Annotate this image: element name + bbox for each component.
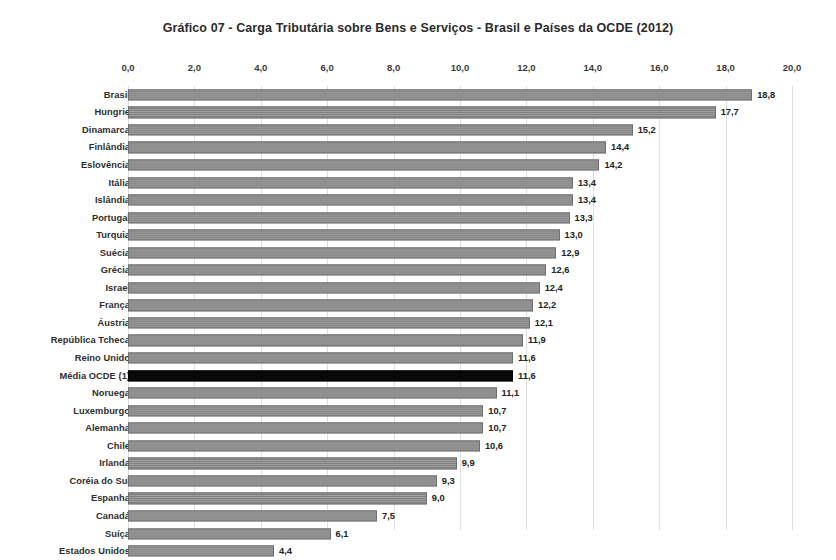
category-label: Canadá [96, 511, 130, 521]
bar [128, 265, 546, 276]
x-tick-label: 0,0 [121, 62, 134, 73]
bar-row: França12,2 [0, 297, 836, 315]
bar-row: Suécia12,9 [0, 244, 836, 262]
bar-value-label: 14,4 [611, 142, 629, 152]
bar [128, 317, 530, 328]
x-tick-label: 2,0 [188, 62, 201, 73]
bar-row: Dinamarca15,2 [0, 121, 836, 139]
bar-value-label: 10,6 [485, 441, 503, 451]
bar-row: Itália13,4 [0, 174, 836, 192]
x-tick-label: 14,0 [584, 62, 603, 73]
bar [128, 352, 513, 363]
bar-row: República Tcheca11,9 [0, 332, 836, 350]
bar-row: Israel12,4 [0, 279, 836, 297]
x-axis-tick-labels: 0,02,04,06,08,010,012,014,016,018,020,0 [0, 62, 836, 76]
bar-row: Alemanha10,7 [0, 419, 836, 437]
bar-row: Média OCDE (1)11,6 [0, 367, 836, 385]
bar-value-label: 10,7 [488, 423, 506, 433]
category-label: Dinamarca [82, 125, 130, 135]
bar-value-label: 12,9 [561, 248, 579, 258]
x-tick-label: 18,0 [716, 62, 735, 73]
bar-row: Chile10,6 [0, 437, 836, 455]
bar-value-label: 13,4 [578, 195, 596, 205]
bar-row: Hungrie17,7 [0, 104, 836, 122]
bar [128, 159, 599, 170]
bar [128, 405, 483, 416]
bar-value-label: 11,6 [518, 353, 536, 363]
bar-row: Espanha9,0 [0, 490, 836, 508]
bar-row: Islândia13,4 [0, 191, 836, 209]
bar [128, 177, 573, 188]
category-label: Suécia [100, 248, 130, 258]
bar-value-label: 9,3 [442, 476, 455, 486]
bar-value-label: 11,1 [502, 388, 520, 398]
bar [128, 212, 570, 223]
bar [128, 493, 427, 504]
bar [128, 247, 556, 258]
bar-value-label: 13,4 [578, 178, 596, 188]
bar [128, 528, 331, 539]
bar [128, 475, 437, 486]
bar-row: Turquia13,0 [0, 226, 836, 244]
bar [128, 440, 480, 451]
bar-value-label: 7,5 [382, 511, 395, 521]
x-tick-label: 6,0 [321, 62, 334, 73]
category-label: Eslovência [81, 160, 130, 170]
bar-value-label: 13,3 [575, 213, 593, 223]
bar [128, 458, 457, 469]
category-label: Áustria [98, 318, 130, 328]
bar-value-label: 15,2 [638, 125, 656, 135]
bar-value-label: 11,9 [528, 335, 546, 345]
category-label: República Tcheca [51, 335, 130, 345]
category-label: Espanha [91, 493, 130, 503]
bar-value-label: 14,2 [604, 160, 622, 170]
category-label: Grécia [101, 265, 130, 275]
bar-value-label: 13,0 [565, 230, 583, 240]
bar [128, 370, 513, 381]
bar-row: Finlândia14,4 [0, 139, 836, 157]
x-tick-label: 16,0 [650, 62, 669, 73]
category-label: Coréia do Sul [69, 476, 130, 486]
bar-row: Áustria12,1 [0, 314, 836, 332]
bar-value-label: 9,0 [432, 493, 445, 503]
bar [128, 107, 716, 118]
bar-value-label: 12,4 [545, 283, 563, 293]
plot-area: Brasil18,8Hungrie17,7Dinamarca15,2Finlân… [0, 86, 836, 530]
bar-value-label: 11,6 [518, 371, 536, 381]
bar-value-label: 12,1 [535, 318, 553, 328]
category-label: Reino Unido [75, 353, 130, 363]
bar-row: Reino Unido11,6 [0, 349, 836, 367]
x-tick-label: 4,0 [254, 62, 267, 73]
bar [128, 510, 377, 521]
x-tick-label: 20,0 [783, 62, 802, 73]
bar-value-label: 18,8 [757, 90, 775, 100]
bar-row: Brasil18,8 [0, 86, 836, 104]
bar-row: Eslovência14,2 [0, 156, 836, 174]
bar [128, 335, 523, 346]
bar-row: Grécia12,6 [0, 262, 836, 280]
category-label: Estados Unidos [59, 546, 130, 556]
x-tick-label: 12,0 [517, 62, 536, 73]
bar-row: Suíça6,1 [0, 525, 836, 543]
bar-row: Canadá7,5 [0, 507, 836, 525]
category-label: Islândia [95, 195, 130, 205]
bar [128, 388, 497, 399]
category-label: Itália [109, 178, 131, 188]
category-label: Finlândia [89, 142, 130, 152]
bar-row: Irlanda9,9 [0, 455, 836, 473]
bar-value-label: 4,4 [279, 546, 292, 556]
bar-row: Luxemburgo10,7 [0, 402, 836, 420]
bar [128, 300, 533, 311]
bar [128, 124, 633, 135]
category-label: Média OCDE (1) [60, 371, 130, 381]
category-label: Portugal [92, 213, 130, 223]
bar-value-label: 6,1 [336, 529, 349, 539]
bar [128, 230, 560, 241]
category-label: França [99, 300, 130, 310]
chart-title: Gráfico 07 - Carga Tributária sobre Bens… [0, 21, 836, 35]
bar-value-label: 12,6 [551, 265, 569, 275]
category-label: Suíça [105, 529, 130, 539]
bar [128, 282, 540, 293]
bar [128, 194, 573, 205]
